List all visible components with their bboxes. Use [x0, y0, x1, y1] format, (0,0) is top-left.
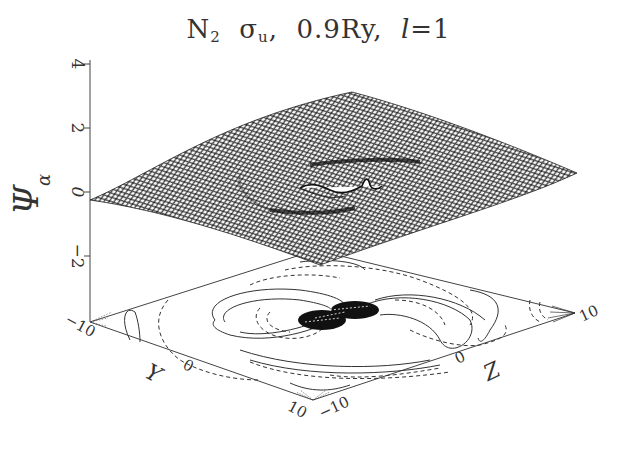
z-tick-0: 0 — [68, 187, 88, 198]
z-axis-label: Ψ — [6, 184, 46, 215]
z-axis-label-horizontal: Z — [479, 356, 505, 386]
z-tick-2: 2 — [68, 123, 88, 134]
z-axis-label-superscript: α — [33, 174, 54, 186]
z-tick-minus2: −2 — [68, 243, 88, 268]
z-axis: 4 2 0 −2 Ψ α — [6, 59, 90, 322]
z-tick-4: 4 — [68, 59, 88, 70]
y-tick-minus10: −10 — [62, 310, 98, 341]
y-axis-label: Y — [141, 359, 168, 389]
z-axis-tick-10: 10 — [576, 301, 601, 325]
y-tick-0: 0 — [180, 355, 197, 375]
y-tick-10: 10 — [285, 397, 310, 422]
wireframe-surface — [90, 92, 577, 265]
z-axis-tick-0: 0 — [452, 347, 468, 367]
plot-area: 4 2 0 −2 Ψ α — [0, 0, 637, 449]
